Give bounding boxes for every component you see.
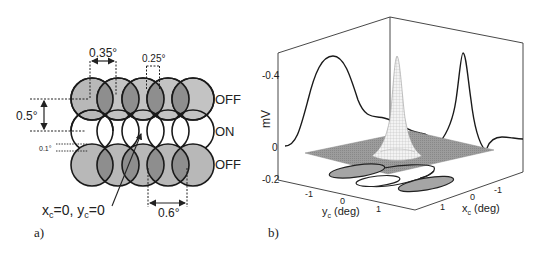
dim-label-0-35: 0.35° (89, 46, 117, 60)
center-annotation: xc=0, yc=0 (42, 202, 105, 220)
x-profile-curve (440, 53, 523, 150)
z-tick-neg-0-4: -0.4 (262, 70, 280, 81)
row-label-on: ON (215, 124, 235, 139)
dim-label-0-6: 0.6° (158, 206, 180, 220)
y-tick-1: 1 (376, 204, 381, 214)
z-tick-0: 0 (272, 142, 278, 153)
dim-label-0-1: 0.1° (39, 145, 52, 152)
y-axis-label: yc (deg) (322, 205, 360, 219)
x-tick-0: 0 (470, 192, 475, 202)
panel-label-a: a) (34, 225, 44, 240)
floor-contours (328, 161, 454, 195)
off-row-top (71, 78, 214, 120)
x-axis-label: xc (deg) (462, 202, 500, 216)
row-label-off-top: OFF (215, 92, 241, 107)
x-tick-neg-1: -1 (494, 185, 502, 195)
off-row-bottom (71, 144, 214, 186)
z-tick-neg-0-2: -0.2 (262, 174, 280, 185)
z-axis-label: mV (259, 110, 273, 128)
panel-label-b: b) (268, 225, 279, 240)
dim-label-0-25: 0.25° (142, 53, 165, 64)
panel-b-3d-surface-plot: -0.4 0 -0.2 mV -1 0 1 yc (deg) 1 0 -1 xc… (259, 17, 523, 240)
dim-label-0-5: 0.5° (16, 109, 38, 123)
y-tick-neg-1: -1 (305, 189, 313, 199)
row-label-off-bottom: OFF (215, 157, 241, 172)
x-tick-1: 1 (440, 202, 445, 212)
figure-canvas: OFF ON OFF 0.35° 0.25° 0.5° 0.1° 0. (0, 0, 544, 253)
panel-a-receptive-field-diagram: OFF ON OFF 0.35° 0.25° 0.5° 0.1° 0. (16, 46, 241, 240)
